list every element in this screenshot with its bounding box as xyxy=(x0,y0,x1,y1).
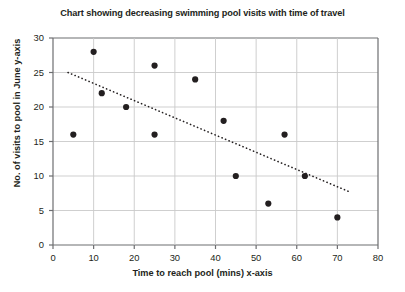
x-tick-label: 30 xyxy=(160,253,190,262)
trend-line xyxy=(68,73,350,192)
data-point xyxy=(334,214,340,220)
x-tick-label: 0 xyxy=(38,253,68,262)
scatter-chart: Chart showing decreasing swimming pool v… xyxy=(0,0,405,292)
data-point xyxy=(281,132,287,138)
data-point xyxy=(192,76,198,82)
data-point xyxy=(91,49,97,55)
data-point xyxy=(302,173,308,179)
data-point xyxy=(151,63,157,69)
data-point xyxy=(99,90,105,96)
chart-title: Chart showing decreasing swimming pool v… xyxy=(0,8,405,18)
x-tick-label: 40 xyxy=(201,253,231,262)
data-point xyxy=(70,132,76,138)
x-tick-label: 20 xyxy=(119,253,149,262)
x-tick-label: 50 xyxy=(241,253,271,262)
x-axis-title: Time to reach pool (mins) x-axis xyxy=(0,268,405,278)
y-axis-title: No. of visits to pool in June y-axis xyxy=(12,0,22,228)
data-layer xyxy=(53,38,378,245)
data-point xyxy=(233,173,239,179)
data-point xyxy=(221,118,227,124)
x-tick-label: 80 xyxy=(363,253,393,262)
data-point xyxy=(265,201,271,207)
data-point xyxy=(151,132,157,138)
y-tick-label: 0 xyxy=(18,240,44,249)
data-point xyxy=(123,104,129,110)
x-tick-label: 60 xyxy=(282,253,312,262)
x-tick-label: 70 xyxy=(322,253,352,262)
x-tick-label: 10 xyxy=(79,253,109,262)
plot-area xyxy=(53,38,378,245)
